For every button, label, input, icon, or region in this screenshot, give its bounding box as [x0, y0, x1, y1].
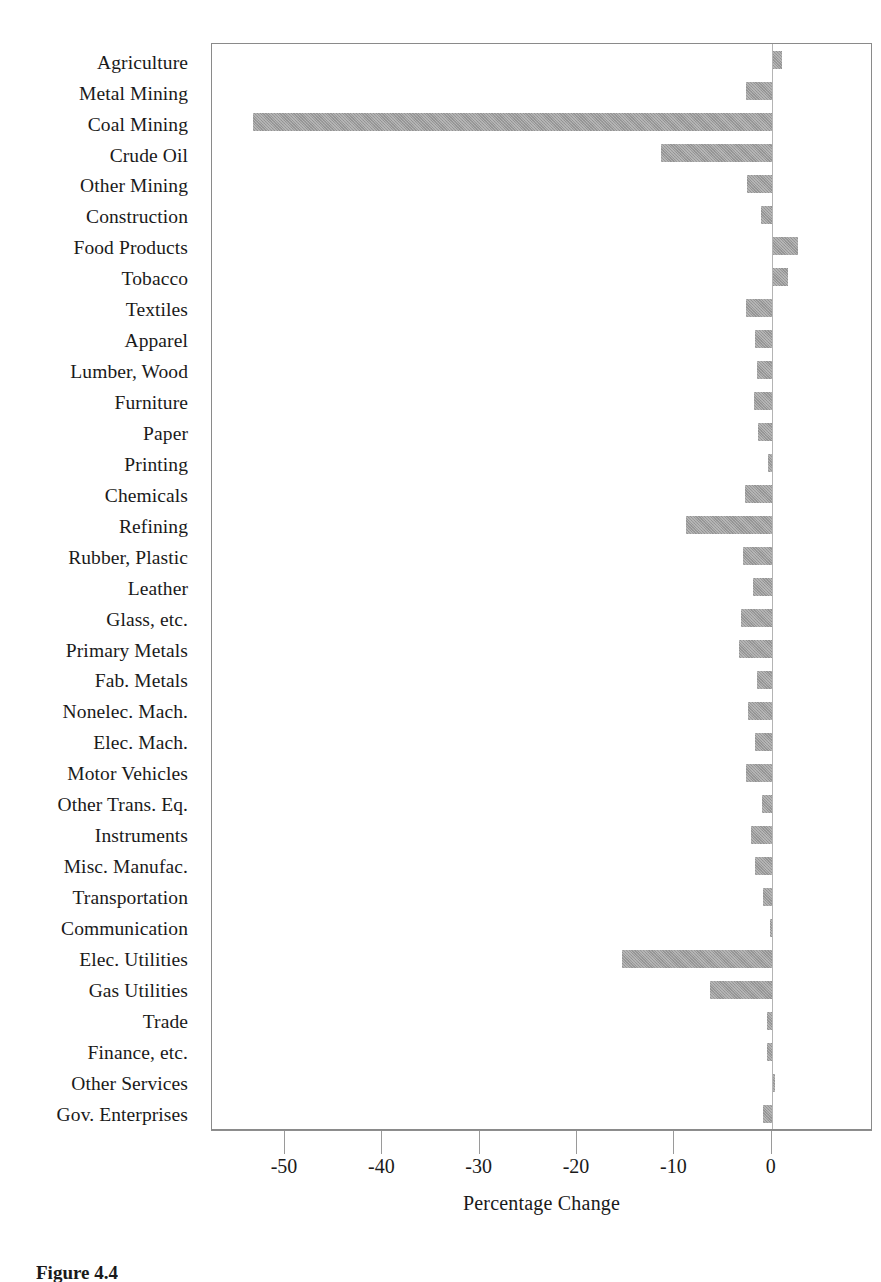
bar [762, 795, 772, 813]
category-label: Gov. Enterprises [0, 1099, 196, 1130]
category-label: Paper [0, 418, 196, 449]
category-label: Gas Utilities [0, 975, 196, 1006]
category-label: Chemicals [0, 480, 196, 511]
bar [743, 547, 772, 565]
bar [753, 578, 771, 596]
bar [710, 981, 771, 999]
x-axis-tick-label: -20 [563, 1156, 590, 1176]
category-label: Elec. Mach. [0, 728, 196, 759]
category-label: Tobacco [0, 264, 196, 295]
bar [772, 237, 798, 255]
x-axis-tick [381, 1131, 382, 1154]
category-label: Refining [0, 511, 196, 542]
bar [772, 51, 783, 69]
category-label: Coal Mining [0, 109, 196, 140]
bar [745, 485, 771, 503]
category-label: Trade [0, 1006, 196, 1037]
figure-container: AgricultureMetal MiningCoal MiningCrude … [0, 0, 881, 1282]
x-axis-tick-label: 0 [766, 1156, 776, 1176]
bar [661, 144, 772, 162]
category-label: Motor Vehicles [0, 759, 196, 790]
x-axis-tick-label: -30 [465, 1156, 492, 1176]
category-label: Other Mining [0, 171, 196, 202]
category-label: Printing [0, 449, 196, 480]
category-label: Agriculture [0, 47, 196, 78]
category-label: Crude Oil [0, 140, 196, 171]
category-label: Misc. Manufac. [0, 851, 196, 882]
bar [755, 733, 772, 751]
category-label: Instruments [0, 820, 196, 851]
category-label: Primary Metals [0, 635, 196, 666]
category-label: Food Products [0, 233, 196, 264]
bar [772, 268, 789, 286]
x-axis-line [211, 1130, 872, 1131]
x-axis-tick [576, 1131, 577, 1154]
bar [755, 857, 772, 875]
bar [253, 113, 772, 131]
bar [758, 423, 772, 441]
bar [739, 640, 772, 658]
bar [763, 1105, 772, 1123]
category-axis-labels: AgricultureMetal MiningCoal MiningCrude … [0, 47, 196, 1130]
category-label: Leather [0, 573, 196, 604]
bar [754, 392, 772, 410]
category-label: Finance, etc. [0, 1037, 196, 1068]
category-label: Fab. Metals [0, 666, 196, 697]
bar [686, 516, 772, 534]
x-axis-tick [284, 1131, 285, 1154]
x-axis-tick [673, 1131, 674, 1154]
category-label: Apparel [0, 325, 196, 356]
category-label: Glass, etc. [0, 604, 196, 635]
category-label: Other Services [0, 1068, 196, 1099]
x-axis-title: Percentage Change [211, 1192, 872, 1215]
category-label: Textiles [0, 295, 196, 326]
bar [746, 764, 771, 782]
bar [747, 175, 771, 193]
bar [757, 671, 772, 689]
bar [622, 950, 772, 968]
category-label: Rubber, Plastic [0, 542, 196, 573]
bar [761, 206, 772, 224]
category-label: Lumber, Wood [0, 356, 196, 387]
bar [751, 826, 771, 844]
category-label: Transportation [0, 882, 196, 913]
x-axis-tick [479, 1131, 480, 1154]
zero-reference-line [772, 44, 773, 1129]
x-axis-tick [771, 1131, 772, 1154]
bar [763, 888, 772, 906]
plot-frame [211, 43, 872, 1130]
figure-caption: Figure 4.4 [36, 1262, 118, 1282]
x-axis-tick-label: -50 [271, 1156, 298, 1176]
bar [755, 330, 772, 348]
bar [746, 82, 771, 100]
category-label: Nonelec. Mach. [0, 697, 196, 728]
category-label: Other Trans. Eq. [0, 790, 196, 821]
category-label: Communication [0, 913, 196, 944]
bar [746, 299, 771, 317]
x-axis-tick-label: -40 [368, 1156, 395, 1176]
category-label: Elec. Utilities [0, 944, 196, 975]
x-axis: -50-40-30-20-100 [211, 1130, 872, 1132]
bar [741, 609, 772, 627]
x-axis-tick-label: -10 [660, 1156, 687, 1176]
category-label: Construction [0, 202, 196, 233]
category-label: Furniture [0, 387, 196, 418]
bar [757, 361, 772, 379]
category-label: Metal Mining [0, 78, 196, 109]
bar [748, 702, 771, 720]
